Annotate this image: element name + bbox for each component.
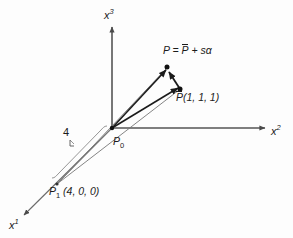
x2-axis-label-sup: 2	[277, 123, 281, 132]
vector-origin-to-pbar	[112, 88, 178, 128]
vector-group	[112, 70, 180, 128]
point-dot-p	[165, 65, 170, 70]
point-p-rhs-rest: + sα	[189, 44, 212, 56]
point-p-equals: =	[170, 44, 182, 56]
vector-pbar-to-p	[169, 72, 180, 89]
point-p-rhs-overbar: P	[182, 45, 189, 56]
point-pbar-symbol: P	[176, 92, 183, 103]
point-pbar-label: P(1, 1, 1)	[176, 92, 219, 103]
point-p-lhs: P	[163, 44, 170, 56]
point-p1-label: P1 (4, 0, 0)	[49, 186, 99, 200]
distance-label: 4	[63, 127, 69, 138]
point-p0-symbol: P	[113, 135, 120, 147]
x2-axis-label: x2	[271, 124, 281, 137]
x1-axis-label-sup: 1	[15, 217, 19, 226]
point-marker-group	[55, 65, 182, 186]
vector-diagram-figure: x3 x2 x1 P = P + sα P(1, 1, 1) P0 P1 (4,…	[0, 0, 293, 238]
construction-line-group	[57, 69, 179, 184]
vector-origin-to-p	[112, 70, 166, 128]
x3-axis-label: x3	[104, 8, 114, 21]
point-pbar-coords: (1, 1, 1)	[183, 91, 219, 103]
point-p-label: P = P + sα	[163, 45, 212, 56]
diagram-canvas	[0, 0, 293, 238]
point-p1-symbol: P	[49, 185, 56, 197]
point-p0-subscript: 0	[120, 141, 124, 150]
point-p1-coords: (4, 0, 0)	[60, 185, 99, 197]
point-p0-label: P0	[113, 136, 124, 150]
point-dot-p0	[110, 126, 114, 130]
x3-axis-label-sup: 3	[110, 7, 114, 16]
distance-tick	[70, 140, 74, 144]
x1-axis-label: x1	[9, 218, 19, 231]
